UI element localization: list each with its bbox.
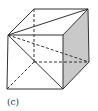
- hidden-edge-bottom-left: [7, 62, 34, 89]
- figure-caption: (c): [7, 97, 19, 107]
- cube-diagram: [0, 0, 98, 111]
